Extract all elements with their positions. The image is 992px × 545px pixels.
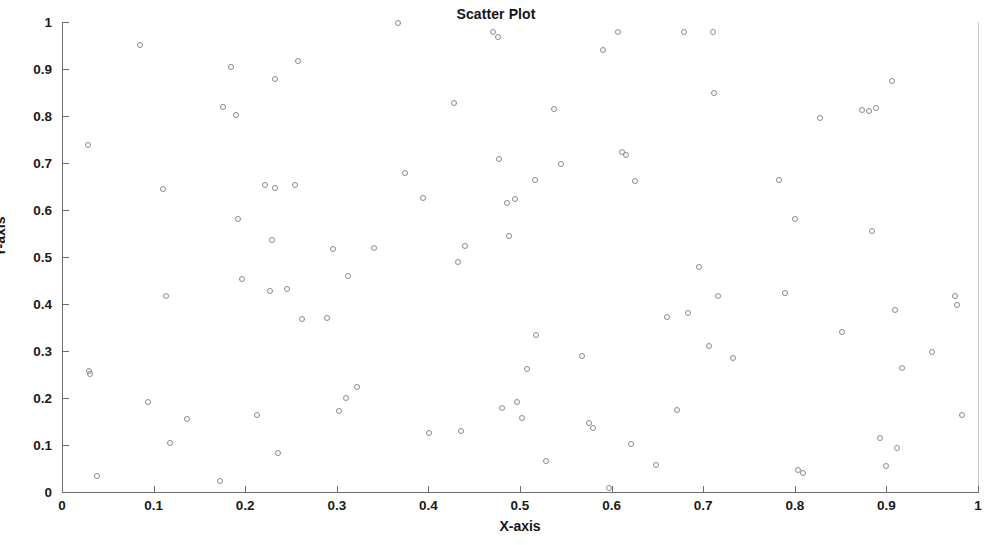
data-point (519, 415, 525, 421)
data-point (233, 112, 239, 118)
data-point (959, 412, 965, 418)
data-point (883, 463, 889, 469)
data-point (402, 170, 408, 176)
x-tick-label: 0 (32, 498, 92, 513)
data-point (395, 20, 401, 26)
x-tick-label: 0.6 (582, 498, 642, 513)
data-point (499, 405, 505, 411)
data-point (163, 293, 169, 299)
data-point (558, 161, 564, 167)
x-tick (978, 486, 979, 493)
data-point (543, 458, 549, 464)
data-point (495, 34, 501, 40)
y-tick-label: 0.6 (0, 203, 52, 218)
data-point (504, 200, 510, 206)
data-point (873, 105, 879, 111)
data-point (371, 245, 377, 251)
data-point (664, 314, 670, 320)
data-point (685, 310, 691, 316)
data-point (87, 371, 93, 377)
data-point (954, 302, 960, 308)
x-tick-label: 0.7 (673, 498, 733, 513)
data-point (696, 264, 702, 270)
x-tick-label: 0.8 (765, 498, 825, 513)
data-point (275, 450, 281, 456)
data-point (952, 293, 958, 299)
y-tick-label: 0.4 (0, 297, 52, 312)
data-point (85, 142, 91, 148)
data-point (817, 115, 823, 121)
data-point (284, 286, 290, 292)
data-point (451, 100, 457, 106)
data-point (254, 412, 260, 418)
data-point (137, 42, 143, 48)
data-point (869, 228, 875, 234)
data-point (184, 416, 190, 422)
data-point (160, 186, 166, 192)
data-point (800, 470, 806, 476)
data-point (239, 276, 245, 282)
data-point (496, 156, 502, 162)
data-point (715, 293, 721, 299)
x-tick-label: 1 (948, 498, 992, 513)
data-point (859, 107, 865, 113)
y-tick-label: 0.1 (0, 438, 52, 453)
y-tick-label: 0.8 (0, 109, 52, 124)
y-axis-label: Y-axis (0, 217, 8, 257)
data-point (299, 316, 305, 322)
data-point (354, 384, 360, 390)
data-point (217, 478, 223, 484)
data-point (426, 430, 432, 436)
y-tick-label: 0.3 (0, 344, 52, 359)
data-point (514, 399, 520, 405)
data-point (336, 408, 342, 414)
x-tick-label: 0.9 (856, 498, 916, 513)
y-tick-label: 1 (0, 15, 52, 30)
data-point (167, 440, 173, 446)
data-point (892, 307, 898, 313)
data-point (929, 349, 935, 355)
data-point (420, 195, 426, 201)
plot-data-area (62, 22, 978, 492)
data-point (292, 182, 298, 188)
data-point (532, 177, 538, 183)
data-point (710, 29, 716, 35)
data-point (524, 366, 530, 372)
data-point (94, 473, 100, 479)
data-point (590, 425, 596, 431)
data-point (272, 76, 278, 82)
data-point (711, 90, 717, 96)
data-point (782, 290, 788, 296)
data-point (681, 29, 687, 35)
data-point (877, 435, 883, 441)
x-tick-label: 0.2 (215, 498, 275, 513)
data-point (628, 441, 634, 447)
data-point (458, 428, 464, 434)
y-tick-label: 0.9 (0, 62, 52, 77)
scatter-plot-figure: Scatter Plot 00.10.20.30.40.50.60.70.80.… (0, 0, 992, 545)
x-tick-label: 0.1 (124, 498, 184, 513)
data-point (324, 315, 330, 321)
data-point (220, 104, 226, 110)
data-point (551, 106, 557, 112)
x-tick-label: 0.4 (398, 498, 458, 513)
y-tick-label: 0.7 (0, 156, 52, 171)
data-point (866, 108, 872, 114)
data-point (330, 246, 336, 252)
data-point (776, 177, 782, 183)
data-point (899, 365, 905, 371)
data-point (606, 485, 612, 491)
data-point (632, 178, 638, 184)
chart-title: Scatter Plot (0, 6, 992, 22)
data-point (235, 216, 241, 222)
x-axis-label: X-axis (62, 518, 978, 534)
data-point (262, 182, 268, 188)
y-tick-label: 0.2 (0, 391, 52, 406)
x-tick-label: 0.5 (490, 498, 550, 513)
data-point (345, 273, 351, 279)
data-point (272, 185, 278, 191)
data-point (653, 462, 659, 468)
y-tick (62, 492, 69, 493)
data-point (145, 399, 151, 405)
data-point (269, 237, 275, 243)
